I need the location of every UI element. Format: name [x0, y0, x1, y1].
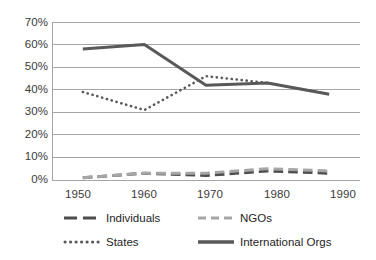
plot-area: 70% 60% 50% 40% 30% 20% 10% 0% 1950 1960… [0, 0, 376, 200]
series-line [83, 45, 329, 95]
chart-legend: Individuals NGOs States International Or… [0, 208, 376, 260]
x-tick-label: 1960 [117, 183, 171, 205]
series-line [83, 76, 329, 110]
legend-item-international-orgs[interactable]: International Orgs [196, 232, 331, 252]
x-tick-label: 1950 [51, 183, 105, 205]
x-tick-label: 1990 [316, 183, 370, 205]
dashed-line-swatch-icon [62, 211, 102, 225]
gridlines [52, 22, 360, 180]
legend-label: International Orgs [240, 235, 331, 249]
dotted-line-swatch-icon [62, 235, 102, 249]
legend-item-states[interactable]: States [62, 232, 139, 252]
dashed-line-swatch-icon [196, 211, 236, 225]
legend-label: Individuals [106, 211, 160, 225]
plot-svg [0, 0, 376, 200]
legend-label: States [106, 235, 139, 249]
x-tick-label: 1980 [250, 183, 304, 205]
legend-item-ngos[interactable]: NGOs [196, 208, 272, 228]
legend-label: NGOs [240, 211, 272, 225]
x-tick-label: 1970 [183, 183, 237, 205]
line-chart: 70% 60% 50% 40% 30% 20% 10% 0% 1950 1960… [0, 0, 376, 260]
solid-line-swatch-icon [196, 235, 236, 249]
legend-item-individuals[interactable]: Individuals [62, 208, 160, 228]
x-axis: 1950 1960 1970 1980 1990 [0, 183, 376, 205]
